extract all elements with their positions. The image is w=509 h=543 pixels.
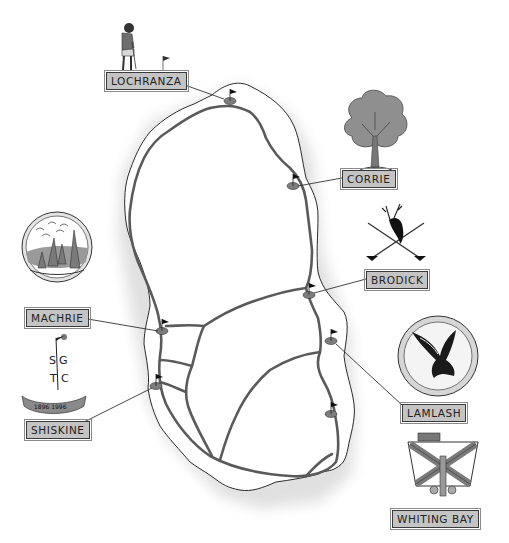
oak-tree-icon [345, 90, 407, 170]
saltire-shield-ship-icon [408, 433, 478, 496]
eagle-badge-icon [398, 316, 478, 396]
stag-head-crossed-clubs-icon [366, 204, 426, 261]
label-shiskine[interactable]: SHISKINE [26, 421, 90, 439]
label-whiting-bay[interactable]: WHITING BAY [392, 510, 479, 528]
label-machrie[interactable]: MACHRIE [26, 309, 89, 327]
svg-text:S: S [49, 354, 56, 367]
golfer-putting-icon [122, 23, 170, 70]
svg-text:T: T [49, 372, 57, 385]
svg-text:G: G [59, 354, 68, 367]
label-brodick[interactable]: BRODICK [366, 271, 428, 289]
svg-text:C: C [61, 372, 69, 385]
label-lochranza[interactable]: LOCHRANZA [106, 72, 187, 90]
label-corrie[interactable]: CORRIE [342, 170, 396, 188]
label-lamlash[interactable]: LAMLASH [402, 404, 466, 422]
svg-text:1896 1996: 1896 1996 [34, 403, 67, 410]
standing-stones-badge-icon [22, 212, 92, 282]
island-coastline [125, 83, 355, 490]
sgtc-monogram-icon: S G T C 1896 1996 [22, 334, 86, 414]
island-map: S G T C 1896 1996 [0, 0, 509, 543]
